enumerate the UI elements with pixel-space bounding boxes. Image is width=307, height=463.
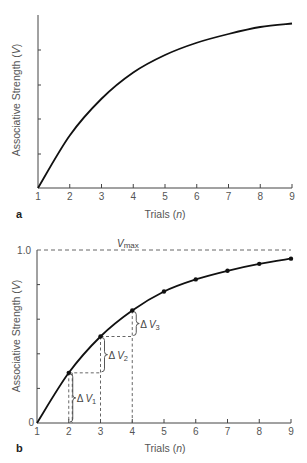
delta-v1-label: ΔV1 bbox=[77, 393, 97, 406]
data-points bbox=[67, 256, 294, 375]
brace bbox=[102, 338, 108, 372]
delta-v3-label: ΔV3 bbox=[140, 319, 160, 332]
x-tick-label: 1 bbox=[34, 426, 40, 437]
data-point bbox=[67, 371, 71, 375]
brace bbox=[133, 312, 139, 336]
data-point bbox=[162, 289, 166, 293]
data-point bbox=[130, 308, 134, 312]
data-point bbox=[257, 262, 261, 266]
x-tick-label: 8 bbox=[257, 191, 263, 202]
x-axis-title: Trials (n) bbox=[144, 442, 185, 454]
x-tick-label: 2 bbox=[66, 426, 72, 437]
data-point bbox=[225, 269, 229, 273]
data-point bbox=[98, 334, 102, 338]
x-tick-label: 3 bbox=[98, 426, 104, 437]
brace bbox=[70, 374, 76, 422]
x-axis-title: Trials (n) bbox=[144, 208, 185, 220]
x-tick-label: 3 bbox=[99, 191, 105, 202]
x-tick-label: 4 bbox=[129, 426, 135, 437]
figure: 123456789 a Trials (n) Associative Stren… bbox=[0, 0, 307, 463]
vmax-label: Vmax bbox=[117, 238, 139, 250]
x-tick-label: 2 bbox=[67, 191, 73, 202]
x-tick-label: 6 bbox=[194, 191, 200, 202]
x-tick-label: 1 bbox=[35, 191, 41, 202]
x-tick-label: 5 bbox=[162, 191, 168, 202]
x-ticks: 123456789 bbox=[34, 419, 294, 437]
x-tick-label: 5 bbox=[161, 426, 167, 437]
delta-guides bbox=[69, 311, 140, 423]
delta-v2-label: ΔV2 bbox=[109, 350, 129, 363]
x-ticks: 123456789 bbox=[35, 184, 295, 202]
data-point bbox=[289, 256, 293, 260]
panel-label-a: a bbox=[16, 208, 23, 220]
y-axis-title: Associative Strength (V) bbox=[10, 44, 22, 157]
x-tick-label: 9 bbox=[288, 426, 294, 437]
x-tick-label: 9 bbox=[289, 191, 295, 202]
x-tick-label: 6 bbox=[193, 426, 199, 437]
panel-b: Vmax 1.0 0 123456789 ΔV1 ΔV2 ΔV3 b Trial… bbox=[10, 238, 294, 454]
panel-label-b: b bbox=[16, 442, 23, 454]
data-point bbox=[194, 277, 198, 281]
y-axis-title: Associative Strength (V) bbox=[10, 280, 22, 393]
x-tick-label: 7 bbox=[226, 191, 232, 202]
x-tick-label: 4 bbox=[130, 191, 136, 202]
y-tick-label-top: 1.0 bbox=[17, 245, 31, 256]
x-tick-label: 8 bbox=[256, 426, 262, 437]
learning-curve bbox=[38, 24, 292, 189]
x-tick-label: 7 bbox=[225, 426, 231, 437]
panel-a: 123456789 a Trials (n) Associative Stren… bbox=[10, 15, 295, 220]
